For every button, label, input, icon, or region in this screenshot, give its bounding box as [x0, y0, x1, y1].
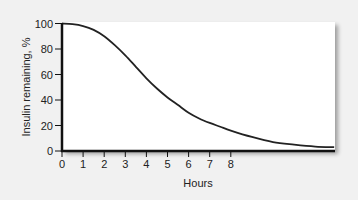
x-tick-label: 8	[228, 158, 234, 170]
y-tick-label: 40	[41, 94, 53, 106]
y-tick-label: 100	[35, 18, 53, 30]
insulin-chart: 020406080100 012345678 Hours Insulin rem…	[0, 0, 358, 200]
x-axis-title: Hours	[183, 177, 213, 189]
x-tick-label: 4	[143, 158, 149, 170]
x-tick-label: 1	[80, 158, 86, 170]
y-tick-label: 20	[41, 120, 53, 132]
plot-panel	[62, 22, 335, 151]
y-tick-label: 60	[41, 69, 53, 81]
x-tick-label: 0	[59, 158, 65, 170]
x-tick-label: 5	[164, 158, 170, 170]
y-tick-label: 80	[41, 43, 53, 55]
x-tick-label: 2	[101, 158, 107, 170]
y-tick-label: 0	[47, 145, 53, 157]
y-axis-ticks: 020406080100	[35, 18, 62, 158]
x-tick-label: 7	[207, 158, 213, 170]
y-axis-title: Insulin remaining, %	[20, 37, 32, 136]
x-tick-label: 3	[122, 158, 128, 170]
x-axis-ticks: 012345678	[59, 151, 234, 170]
x-tick-label: 6	[186, 158, 192, 170]
